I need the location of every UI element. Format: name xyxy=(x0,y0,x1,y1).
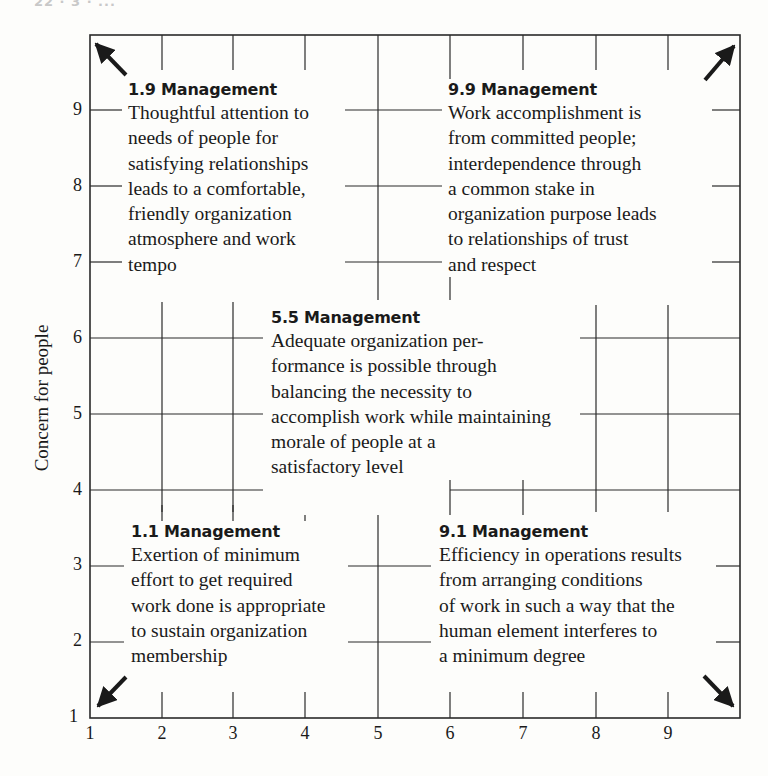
style-block-1-9: 1.9 Management Thoughtful attention to n… xyxy=(122,79,315,277)
x-tick: 6 xyxy=(440,724,460,742)
arrow-bottom-left-icon xyxy=(98,677,126,706)
style-description: Adequate organization per- formance is p… xyxy=(271,328,551,480)
style-block-5-5: 5.5 Management Adequate organization per… xyxy=(265,307,557,480)
x-tick: 1 xyxy=(80,724,100,742)
style-title: 9.1 Management xyxy=(439,521,682,542)
y-tick: 7 xyxy=(62,252,82,270)
y-tick: 5 xyxy=(62,404,82,422)
y-tick: 3 xyxy=(62,555,82,573)
style-description: Thoughtful attention to needs of people … xyxy=(128,100,309,277)
y-tick: 2 xyxy=(62,631,82,649)
x-tick: 9 xyxy=(658,724,678,742)
style-description: Exertion of minimum effort to get requir… xyxy=(131,542,325,668)
y-tick: 4 xyxy=(62,480,82,498)
y-axis-label: Concern for people xyxy=(31,325,53,472)
y-tick: 1 xyxy=(58,707,78,725)
y-tick: 9 xyxy=(62,100,82,118)
arrow-top-left-icon xyxy=(96,44,126,75)
style-title: 1.1 Management xyxy=(131,521,325,542)
x-tick: 4 xyxy=(295,724,315,742)
x-tick: 7 xyxy=(513,724,533,742)
y-tick: 6 xyxy=(62,328,82,346)
style-description: Efficiency in operations results from ar… xyxy=(439,542,682,668)
x-tick: 8 xyxy=(586,724,606,742)
y-tick: 8 xyxy=(62,176,82,194)
style-title: 1.9 Management xyxy=(128,79,309,100)
arrow-bottom-right-icon xyxy=(704,676,733,706)
x-tick: 5 xyxy=(368,724,388,742)
style-title: 9.9 Management xyxy=(448,79,657,100)
style-description: Work accomplishment is from committed pe… xyxy=(448,100,657,277)
style-block-9-9: 9.9 Management Work accomplishment is fr… xyxy=(442,79,663,277)
x-tick: 3 xyxy=(223,724,243,742)
style-block-1-1: 1.1 Management Exertion of minimum effor… xyxy=(125,521,331,668)
arrow-top-right-icon xyxy=(705,46,734,80)
x-tick: 2 xyxy=(152,724,172,742)
style-block-9-1: 9.1 Management Efficiency in operations … xyxy=(433,521,688,668)
style-title: 5.5 Management xyxy=(271,307,551,328)
